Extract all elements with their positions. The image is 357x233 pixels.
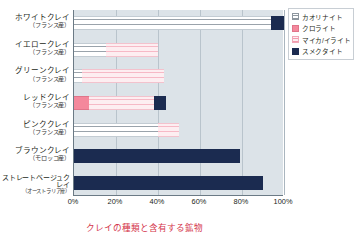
stacked-bar xyxy=(74,43,158,57)
legend-swatch-smectite xyxy=(292,48,299,55)
chart-root: ホワイトクレイ（フランス産）イエロークレイ（フランス産）グリーンクレイ（フランス… xyxy=(0,0,357,233)
bar-segment-mica xyxy=(89,96,154,110)
legend-item-label: カオリナイト xyxy=(302,12,342,22)
bar-row xyxy=(74,43,283,57)
stacked-bar xyxy=(74,149,240,163)
bar-row xyxy=(74,16,283,30)
bar-row xyxy=(74,123,283,137)
bar-segment-mica xyxy=(106,43,159,57)
bar-segment-kaolinite xyxy=(74,123,158,137)
stacked-bar xyxy=(74,16,284,30)
category-label-origin: （モロッコ産） xyxy=(0,155,70,162)
stacked-bar xyxy=(74,69,164,83)
plot-area xyxy=(73,10,283,196)
bar-segment-smectite xyxy=(271,16,284,30)
chart-legend: カオリナイトクロライトマイカ/イライトスメクタイト xyxy=(288,8,354,60)
category-axis-labels: ホワイトクレイ（フランス産）イエロークレイ（フランス産）グリーンクレイ（フランス… xyxy=(0,10,72,196)
legend-item[interactable]: マイカ/イライト xyxy=(292,35,351,44)
category-label-origin: （フランス産） xyxy=(0,129,70,136)
legend-swatch-chlorite xyxy=(292,25,299,32)
category-label: グリーンクレイ（フランス産） xyxy=(0,67,70,82)
category-label: ホワイトクレイ（フランス産） xyxy=(0,14,70,29)
legend-swatch-mica xyxy=(292,36,299,43)
category-label: レッドクレイ（フランス産） xyxy=(0,94,70,109)
bar-segment-kaolinite xyxy=(74,43,106,57)
category-label-origin: （フランス産） xyxy=(0,22,70,29)
legend-item[interactable]: カオリナイト xyxy=(292,12,351,21)
legend-swatch-kaolinite xyxy=(292,13,299,20)
x-tick-label: 100% xyxy=(274,197,293,206)
category-label-origin: （フランス産） xyxy=(0,49,70,56)
category-label-origin: （フランス産） xyxy=(0,102,70,109)
category-label: ピンククレイ（フランス産） xyxy=(0,121,70,136)
chart-caption-text: クレイの種類と含有する鉱物 xyxy=(86,221,203,233)
x-tick-label: 40% xyxy=(150,197,165,206)
stacked-bar xyxy=(74,176,263,190)
bar-segment-kaolinite xyxy=(74,69,82,83)
category-label-origin: （フランス産） xyxy=(0,76,70,83)
bar-row xyxy=(74,149,283,163)
bar-row xyxy=(74,176,283,190)
category-label: ストレートベージュクレイ（オーストラリア産） xyxy=(0,174,70,195)
x-tick-label: 60% xyxy=(192,197,207,206)
x-tick-label: 80% xyxy=(234,197,249,206)
chart-caption: クレイの種類と含有する鉱物 xyxy=(0,221,357,233)
bar-segment-smectite xyxy=(154,96,167,110)
x-tick-label: 0% xyxy=(68,197,79,206)
category-label: ブラウンクレイ（モロッコ産） xyxy=(0,147,70,162)
bar-segment-smectite xyxy=(74,176,263,190)
x-axis-ticks: 0%20%40%60%80%100% xyxy=(73,197,283,209)
legend-item[interactable]: クロライト xyxy=(292,24,351,33)
legend-item-label: スメクタイト xyxy=(302,46,342,56)
stacked-bar xyxy=(74,96,166,110)
bar-segment-chlorite xyxy=(74,96,89,110)
bar-segment-mica xyxy=(82,69,164,83)
category-label: イエロークレイ（フランス産） xyxy=(0,41,70,56)
x-tick-label: 20% xyxy=(108,197,123,206)
bar-row xyxy=(74,96,283,110)
legend-item-label: クロライト xyxy=(302,23,336,33)
category-label-origin: （オーストラリア産） xyxy=(0,189,70,195)
bar-segment-smectite xyxy=(74,149,240,163)
bar-segment-kaolinite xyxy=(74,16,271,30)
legend-item[interactable]: スメクタイト xyxy=(292,47,351,56)
stacked-bar xyxy=(74,123,179,137)
category-label-name: ストレートベージュクレイ xyxy=(0,174,70,189)
bar-segment-mica xyxy=(158,123,179,137)
legend-item-label: マイカ/イライト xyxy=(302,35,350,45)
gridline-100 xyxy=(284,10,285,195)
bar-row xyxy=(74,69,283,83)
